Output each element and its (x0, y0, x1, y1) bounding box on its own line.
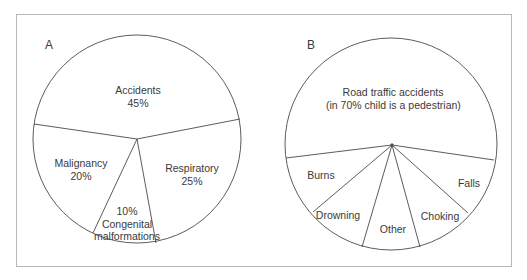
label-congenital: 10% Congenital malformations (94, 205, 160, 243)
label-drowning: Drowning (313, 209, 363, 222)
label-accidents: Accidents 45% (106, 84, 170, 110)
pie-charts (0, 0, 527, 280)
label-road-traffic-line2: (in 70% child is a pedestrian) (326, 99, 460, 112)
panel-label-a: A (45, 38, 53, 52)
label-congenital-value: 10% (94, 205, 160, 218)
label-road-traffic-line1: Road traffic accidents (326, 86, 460, 99)
label-road-traffic: Road traffic accidents (in 70% child is … (326, 86, 460, 112)
label-malignancy-value: 20% (48, 170, 114, 183)
label-malignancy: Malignancy 20% (48, 157, 114, 183)
panel-label-b: B (307, 38, 315, 52)
label-choking: Choking (418, 210, 462, 223)
label-falls: Falls (454, 177, 484, 190)
label-respiratory-value: 25% (157, 175, 227, 188)
label-accidents-value: 45% (106, 97, 170, 110)
label-congenital-name-1: Congenital (94, 218, 160, 231)
label-respiratory: Respiratory 25% (157, 162, 227, 188)
label-accidents-name: Accidents (106, 84, 170, 97)
label-other: Other (377, 223, 409, 236)
pie-b-center-dot (391, 144, 393, 146)
label-respiratory-name: Respiratory (157, 162, 227, 175)
label-congenital-name-2: malformations (94, 230, 160, 243)
label-malignancy-name: Malignancy (48, 157, 114, 170)
label-burns: Burns (303, 169, 339, 182)
